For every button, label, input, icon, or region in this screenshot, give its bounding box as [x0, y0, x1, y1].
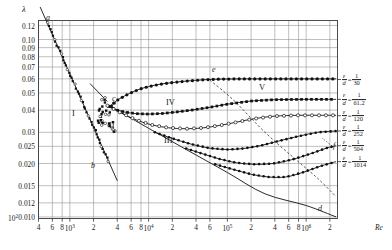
marker-eps-d-61: [300, 98, 303, 101]
marker-eps-d-504: [273, 162, 276, 165]
marker-eps-d-252: [290, 137, 293, 140]
marker-eps-d-1014: [292, 174, 295, 177]
marker-laminar-scatter: [100, 145, 102, 147]
marker-eps-d-30: [135, 89, 138, 92]
marker-eps-d-504: [263, 163, 266, 166]
marker-laminar-scatter: [99, 142, 101, 144]
marker-laminar-scatter: [68, 72, 70, 74]
marker-eps-d-504: [316, 150, 319, 153]
marker-eps-d-61: [295, 98, 298, 101]
marker-eps-d-30: [212, 78, 215, 81]
marker-eps-d-30: [290, 77, 293, 80]
marker-laminar-scatter: [65, 64, 67, 66]
marker-eps-d-252: [236, 148, 239, 151]
marker-laminar-scatter: [80, 96, 82, 98]
marker-laminar-scatter: [90, 121, 92, 123]
marker-transition-scatter: [97, 120, 99, 122]
marker-eps-d-61: [196, 108, 199, 111]
gridlines: [39, 21, 338, 219]
marker-eps-d-1014: [282, 176, 285, 179]
marker-eps-d-504: [278, 161, 281, 164]
marker-eps-d-252: [177, 139, 180, 142]
x-tick-label: 6: [208, 223, 212, 232]
marker-eps-d-61: [126, 111, 129, 114]
marker-eps-d-252: [206, 146, 209, 149]
marker-laminar-scatter: [48, 25, 50, 27]
marker-laminar-scatter: [75, 87, 77, 89]
marker-eps-d-120: [144, 121, 147, 124]
marker-eps-d-61: [270, 99, 273, 102]
annotation-e: e: [212, 65, 216, 74]
marker-eps-d-120: [324, 114, 327, 117]
marker-eps-d-504: [292, 158, 295, 161]
marker-eps-d-252: [182, 140, 185, 143]
marker-eps-d-252: [334, 130, 337, 133]
marker-eps-d-120: [151, 123, 154, 126]
equals-sign: =: [348, 142, 352, 149]
marker-eps-d-1014: [302, 171, 305, 174]
marker-eps-d-61: [250, 100, 253, 103]
roughness-value-fraction: 1120: [352, 109, 364, 123]
marker-eps-d-120: [248, 118, 251, 121]
marker-eps-d-252: [305, 133, 308, 136]
marker-eps-d-120: [178, 127, 181, 130]
marker-eps-d-252: [319, 131, 322, 134]
marker-eps-d-120: [275, 115, 278, 118]
marker-eps-d-1014: [214, 163, 217, 166]
marker-eps-d-252: [314, 131, 317, 134]
marker-eps-d-30: [165, 82, 168, 85]
x-tick-label: 2: [92, 223, 96, 232]
marker-eps-d-30: [206, 78, 209, 81]
equals-sign: =: [348, 112, 352, 119]
marker-eps-d-30: [316, 77, 319, 80]
marker-laminar-scatter: [78, 93, 80, 95]
marker-eps-d-1014: [243, 171, 246, 174]
marker-eps-d-252: [197, 144, 200, 147]
x-tick-label: 105: [222, 223, 232, 233]
marker-eps-d-252: [201, 145, 204, 148]
marker-eps-d-61: [280, 98, 283, 101]
x-tick-label: 4: [37, 223, 41, 232]
marker-eps-d-1014: [306, 169, 309, 172]
marker-eps-d-120: [268, 115, 271, 118]
marker-eps-d-252: [211, 147, 214, 150]
marker-eps-d-504: [199, 152, 202, 155]
marker-eps-d-252: [300, 134, 303, 137]
marker-eps-d-120: [131, 117, 134, 120]
marker-eps-d-1014: [277, 176, 280, 179]
equals-sign: =: [348, 128, 352, 135]
marker-eps-d-1014: [262, 175, 265, 178]
x-tick-label: 4: [194, 223, 198, 232]
marker-laminar-scatter: [54, 41, 56, 43]
marker-laminar-scatter: [51, 31, 53, 33]
marker-eps-d-120: [158, 125, 161, 128]
marker-eps-d-252: [329, 130, 332, 133]
marker-eps-d-61: [230, 102, 233, 105]
roughness-ratio-fraction: εd: [342, 109, 347, 123]
y-tick-label: 0.05: [2, 88, 35, 97]
marker-eps-d-120: [118, 111, 121, 114]
y-tick-label: 0.04: [2, 106, 35, 115]
marker-eps-d-30: [331, 77, 334, 80]
marker-laminar-scatter: [87, 115, 89, 117]
marker-eps-d-120: [106, 104, 109, 107]
marker-eps-d-252: [256, 145, 259, 148]
marker-eps-d-504: [190, 149, 193, 152]
marker-eps-d-120: [234, 121, 237, 124]
marker-eps-d-504: [218, 158, 221, 161]
marker-eps-d-504: [248, 163, 251, 166]
marker-eps-d-1014: [267, 176, 270, 179]
marker-eps-d-1014: [252, 173, 255, 176]
marker-eps-d-504: [228, 160, 231, 163]
x-tick-label: 6: [129, 223, 133, 232]
marker-eps-d-30: [300, 77, 303, 80]
marker-eps-d-1014: [325, 163, 328, 166]
y-tick-label: 0.09: [2, 43, 35, 52]
marker-eps-d-1014: [224, 166, 227, 169]
marker-laminar-scatter: [97, 136, 99, 138]
roughness-value-fraction: 11014: [352, 155, 367, 169]
marker-eps-d-61: [206, 106, 209, 109]
marker-transition-scatter: [101, 98, 104, 101]
equals-sign: =: [348, 76, 352, 83]
marker-eps-d-30: [295, 77, 298, 80]
